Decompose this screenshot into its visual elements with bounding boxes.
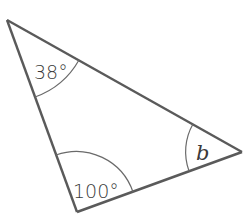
edge-top-left-to-bottom xyxy=(7,20,77,212)
angle-label-bottom: 100° xyxy=(73,180,119,202)
edge-right-to-top-left xyxy=(7,20,242,152)
angle-label-top-left: 38° xyxy=(34,61,68,83)
triangle-diagram: 38° 100° b xyxy=(0,0,249,221)
triangle xyxy=(7,20,242,212)
angle-arc-right xyxy=(186,124,193,171)
angle-label-right: b xyxy=(196,141,209,165)
